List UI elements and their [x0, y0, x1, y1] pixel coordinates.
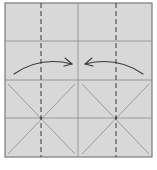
intersection-dot-right	[115, 117, 117, 119]
intersection-dot-left	[40, 117, 42, 119]
origami-diagram	[0, 0, 157, 170]
